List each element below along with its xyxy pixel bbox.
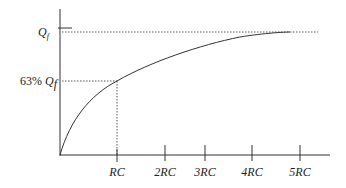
- tick-label-rc: RC: [108, 165, 125, 179]
- tick-label-3rc: 3RC: [193, 165, 216, 179]
- tick-label-5rc: 5RC: [289, 165, 311, 179]
- tick-label-4rc: 4RC: [241, 165, 263, 179]
- sixty-three-qf-label: 63%Qf: [20, 74, 59, 91]
- charge-curve: [60, 32, 290, 155]
- qf-label: Qf: [38, 25, 51, 41]
- tick-label-2rc: 2RC: [154, 165, 176, 179]
- charge-curve-diagram: Qf 63%Qf RC 2RC 3RC 4RC 5RC: [0, 0, 346, 188]
